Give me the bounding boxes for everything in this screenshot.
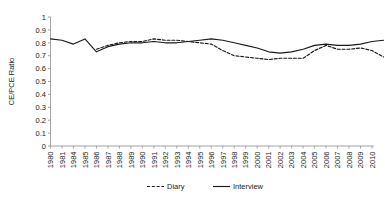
x-tick-label: 1994 — [184, 152, 193, 169]
x-tick-label: 2002 — [276, 152, 285, 169]
x-tick-label: 2004 — [299, 152, 308, 169]
x-tick-label: 2008 — [345, 152, 354, 169]
line-chart: 00.10.20.30.40.50.60.70.80.91 1980198119… — [0, 0, 385, 202]
x-tick-label: 1999 — [241, 152, 250, 169]
x-axis: 1980198119841985198619871988198919901991… — [46, 146, 377, 168]
x-tick-label: 1981 — [58, 152, 67, 169]
x-tick-label: 2010 — [368, 152, 377, 169]
x-tick-label: 1985 — [81, 152, 90, 169]
y-tick-label: 0.6 — [36, 64, 46, 73]
x-tick-label: 1992 — [161, 152, 170, 169]
x-tick-label: 2001 — [264, 152, 273, 169]
y-tick-label: 0.9 — [36, 26, 46, 35]
data-series-group — [51, 39, 384, 60]
y-tick-label: 0.2 — [36, 116, 46, 125]
chart-container: 00.10.20.30.40.50.60.70.80.91 1980198119… — [0, 0, 385, 202]
x-tick-label: 2007 — [333, 152, 342, 169]
y-tick-label: 0.7 — [36, 51, 46, 60]
x-tick-label: 1989 — [127, 152, 136, 169]
x-tick-label: 1991 — [150, 152, 159, 169]
legend-label-diary: Diary — [167, 182, 185, 191]
y-axis: 00.10.20.30.40.50.60.70.80.91 — [36, 13, 51, 151]
x-tick-label: 1986 — [92, 152, 101, 169]
x-tick-label: 2006 — [322, 152, 331, 169]
x-tick-label: 1996 — [207, 152, 216, 169]
x-tick-label: 2009 — [356, 152, 365, 169]
y-axis-title-text: CE/PCE Ratio — [7, 58, 16, 106]
x-tick-label: 2003 — [287, 152, 296, 169]
y-tick-label: 1 — [42, 13, 46, 22]
x-tick-label: 1988 — [115, 152, 124, 169]
y-tick-label: 0.5 — [36, 77, 46, 86]
series-line-interview — [51, 39, 384, 53]
y-tick-label: 0.4 — [36, 90, 46, 99]
y-tick-label: 0.8 — [36, 39, 46, 48]
chart-legend: DiaryInterview — [147, 182, 264, 191]
x-tick-label: 1997 — [219, 152, 228, 169]
x-tick-label: 1980 — [46, 152, 55, 169]
x-tick-label: 2000 — [253, 152, 262, 169]
x-tick-label: 2005 — [310, 152, 319, 169]
x-tick-label: 1993 — [173, 152, 182, 169]
x-tick-label: 1995 — [196, 152, 205, 169]
y-tick-label: 0.3 — [36, 103, 46, 112]
y-tick-label: 0 — [42, 142, 46, 151]
y-tick-label: 0.1 — [36, 129, 46, 138]
series-line-diary — [96, 39, 383, 60]
x-tick-label: 1998 — [230, 152, 239, 169]
y-axis-title: CE/PCE Ratio — [7, 58, 16, 106]
x-tick-label: 1990 — [138, 152, 147, 169]
x-tick-label: 1984 — [69, 152, 78, 169]
x-tick-label: 1987 — [104, 152, 113, 169]
legend-label-interview: Interview — [233, 182, 264, 191]
